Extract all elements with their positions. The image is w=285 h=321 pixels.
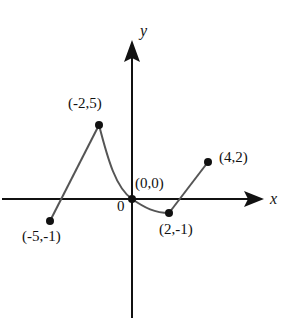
segment-right (169, 162, 208, 213)
point-4-2 (204, 158, 212, 166)
label-0-0: (0,0) (135, 175, 164, 192)
point-neg2-5 (95, 121, 103, 129)
y-axis-label: y (138, 22, 148, 40)
origin-label: 0 (117, 198, 125, 214)
point-neg5-neg1 (46, 217, 54, 225)
label-2-neg1: (2,-1) (159, 221, 193, 238)
label-neg5-neg1: (-5,-1) (22, 228, 61, 245)
label-neg2-5: (-2,5) (68, 95, 102, 112)
segment-left (50, 125, 99, 221)
point-0-0 (128, 195, 136, 203)
point-2-neg1 (165, 209, 173, 217)
label-4-2: (4,2) (219, 149, 248, 166)
x-axis-label: x (269, 190, 277, 207)
function-graph: x y 0 (-5,-1) (-2,5) (0,0) (2,-1) (4,2) (0, 0, 285, 321)
